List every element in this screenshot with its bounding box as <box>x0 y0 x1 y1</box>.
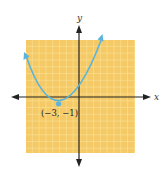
parabola-graph: x y (−3, −1) <box>0 0 164 173</box>
vertex-point <box>56 101 61 106</box>
y-axis-label: y <box>76 13 83 23</box>
y-axis-up-arrow-icon <box>76 25 82 33</box>
y-axis-down-arrow-icon <box>76 159 82 167</box>
x-axis-label: x <box>154 92 159 102</box>
x-axis-right-arrow-icon <box>143 94 151 100</box>
vertex-label: (−3, −1) <box>41 108 78 118</box>
x-axis-left-arrow-icon <box>11 94 19 100</box>
